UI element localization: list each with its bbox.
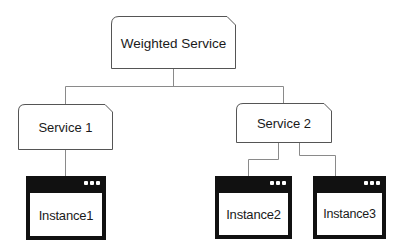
instance-2-node[interactable]: Instance2: [215, 176, 292, 239]
weighted-service-label: Weighted Service: [111, 35, 236, 50]
instance-1-node[interactable]: Instance1: [26, 176, 106, 240]
service-1-label: Service 1: [18, 120, 113, 135]
weighted-service-node[interactable]: Weighted Service: [111, 16, 236, 69]
window-body: Instance3: [317, 193, 382, 235]
edge-service2-instance3: [300, 142, 336, 176]
service-2-node[interactable]: Service 2: [236, 103, 332, 143]
window-dots-icon: [364, 181, 380, 185]
window-title-bar: [26, 176, 106, 193]
instance-3-label: Instance3: [317, 207, 382, 221]
edge-service2-instance2: [249, 142, 279, 176]
instance-2-label: Instance2: [219, 207, 288, 222]
window-title-bar: [215, 176, 292, 193]
window-body: Instance2: [219, 193, 288, 235]
window-body: Instance1: [30, 193, 102, 236]
service-2-label: Service 2: [236, 116, 332, 131]
window-dots-icon: [270, 181, 286, 185]
window-title-bar: [313, 176, 386, 193]
service-1-node[interactable]: Service 1: [18, 104, 113, 150]
window-dots-icon: [84, 181, 100, 185]
instance-1-label: Instance1: [30, 207, 102, 222]
diagram-canvas: Weighted Service Service 1 Service 2 Ins…: [0, 0, 405, 248]
instance-3-node[interactable]: Instance3: [313, 176, 386, 239]
